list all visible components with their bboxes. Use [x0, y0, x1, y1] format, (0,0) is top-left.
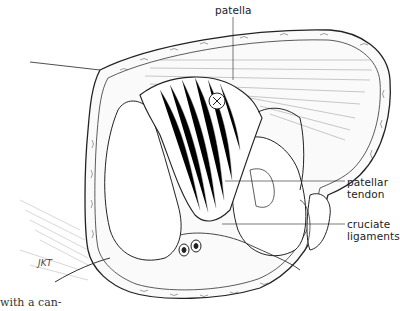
label-cruciate-line1: cruciate — [347, 218, 400, 230]
label-patellar-tendon-line1: patellar — [347, 176, 388, 188]
screw-icon — [209, 93, 225, 109]
label-patella: patella — [215, 4, 252, 16]
caption-fragment: with a can- — [0, 296, 62, 309]
label-cruciate-ligaments: cruciate ligaments — [347, 218, 400, 242]
label-patellar-tendon: patellar tendon — [347, 176, 388, 200]
label-patellar-tendon-line2: tendon — [347, 188, 388, 200]
artist-signature: JKT — [38, 258, 52, 268]
label-cruciate-line2: ligaments — [347, 230, 400, 242]
